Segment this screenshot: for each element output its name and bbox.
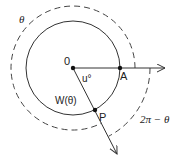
unit-circle-diagram: 0 A P u° W(θ) θ 2π − θ bbox=[0, 0, 175, 163]
center-label: 0 bbox=[64, 55, 70, 67]
arc-w-label: W(θ) bbox=[55, 95, 77, 106]
theta-label: θ bbox=[19, 13, 25, 25]
angle-label: u° bbox=[82, 73, 92, 84]
reflex-arc bbox=[109, 68, 150, 136]
point-p-label: P bbox=[99, 111, 106, 123]
point-p bbox=[93, 108, 97, 112]
point-o bbox=[71, 66, 75, 70]
point-a-label: A bbox=[120, 70, 128, 82]
reflex-angle-label: 2π − θ bbox=[140, 113, 170, 125]
